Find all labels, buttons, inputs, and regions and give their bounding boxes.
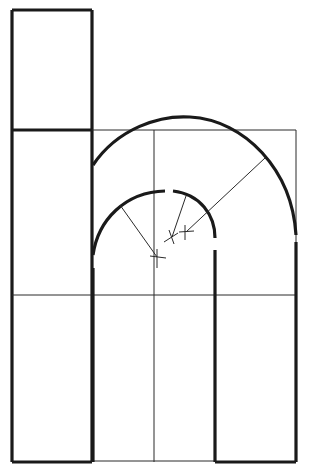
center-mark-icon (150, 249, 166, 268)
ascender-outline (12, 10, 92, 462)
construction-guides (12, 130, 296, 462)
radius-lines (120, 158, 265, 257)
letter-h-construction-diagram (0, 0, 310, 475)
center-mark-icon (164, 230, 178, 244)
outer-shoulder-arc (93, 117, 296, 235)
